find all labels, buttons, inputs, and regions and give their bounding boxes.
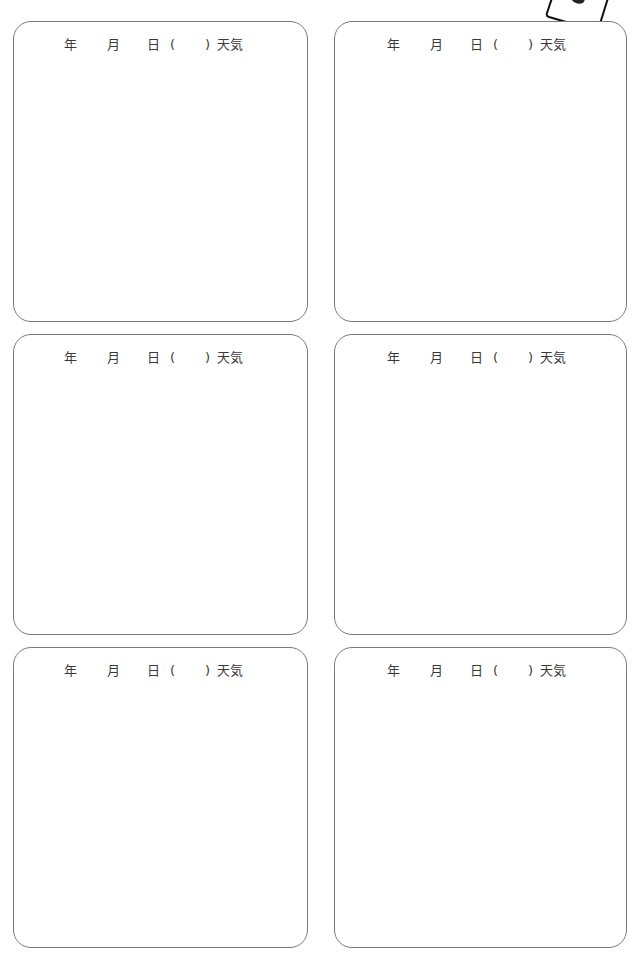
day-label: 日 (147, 663, 160, 679)
year-label: 年 (64, 37, 77, 53)
year-label: 年 (64, 350, 77, 366)
close-paren: ) (528, 37, 533, 53)
open-paren: ( (493, 663, 498, 679)
weather-label: 天気 (217, 37, 243, 53)
day-label: 日 (147, 37, 160, 53)
diary-card-1[interactable]: 年 月 日 ( ) 天気 (13, 21, 308, 322)
date-weather-header: 年 月 日 ( ) 天気 (14, 350, 307, 366)
close-paren: ) (528, 350, 533, 366)
open-paren: ( (170, 350, 175, 366)
open-paren: ( (170, 663, 175, 679)
date-weather-header: 年 月 日 ( ) 天気 (335, 663, 626, 679)
month-label: 月 (107, 350, 120, 366)
diary-card-6[interactable]: 年 月 日 ( ) 天気 (334, 647, 627, 948)
date-weather-header: 年 月 日 ( ) 天気 (335, 350, 626, 366)
diary-card-3[interactable]: 年 月 日 ( ) 天気 (13, 334, 308, 635)
year-label: 年 (387, 350, 400, 366)
weather-label: 天気 (217, 350, 243, 366)
open-paren: ( (170, 37, 175, 53)
diary-card-4[interactable]: 年 月 日 ( ) 天気 (334, 334, 627, 635)
date-weather-header: 年 月 日 ( ) 天気 (14, 37, 307, 53)
close-paren: ) (205, 663, 210, 679)
date-weather-header: 年 月 日 ( ) 天気 (14, 663, 307, 679)
weather-label: 天気 (217, 663, 243, 679)
year-label: 年 (64, 663, 77, 679)
weather-label: 天気 (540, 37, 566, 53)
close-paren: ) (528, 663, 533, 679)
diary-card-2[interactable]: 年 月 日 ( ) 天気 (334, 21, 627, 322)
year-label: 年 (387, 663, 400, 679)
weather-label: 天気 (540, 350, 566, 366)
month-label: 月 (107, 37, 120, 53)
day-label: 日 (470, 37, 483, 53)
month-label: 月 (107, 663, 120, 679)
open-paren: ( (493, 350, 498, 366)
month-label: 月 (430, 37, 443, 53)
close-paren: ) (205, 37, 210, 53)
day-label: 日 (470, 350, 483, 366)
day-label: 日 (147, 350, 160, 366)
weather-label: 天気 (540, 663, 566, 679)
month-label: 月 (430, 350, 443, 366)
date-weather-header: 年 月 日 ( ) 天気 (335, 37, 626, 53)
open-paren: ( (493, 37, 498, 53)
month-label: 月 (430, 663, 443, 679)
year-label: 年 (387, 37, 400, 53)
day-label: 日 (470, 663, 483, 679)
diary-card-5[interactable]: 年 月 日 ( ) 天気 (13, 647, 308, 948)
close-paren: ) (205, 350, 210, 366)
